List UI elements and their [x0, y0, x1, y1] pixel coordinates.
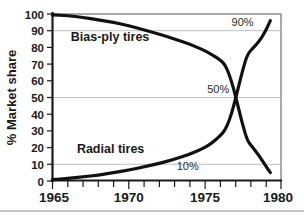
market-share-line-chart: 100 90 80 70 60 50 40 30 20 10 0 % Marke…: [0, 0, 304, 216]
y-tick-label-90: 90: [31, 25, 44, 37]
chart-figure: 100 90 80 70 60 50 40 30 20 10 0 % Marke…: [0, 0, 304, 216]
x-tick-label-1975: 1975: [190, 190, 221, 205]
y-tick-label-40: 40: [31, 109, 44, 121]
annotation-90-percent: 90%: [232, 16, 254, 28]
y-tick-label-60: 60: [31, 75, 44, 87]
y-tick-label-0: 0: [38, 176, 44, 188]
y-tick-label-80: 80: [31, 42, 44, 54]
x-tick-label-1970: 1970: [114, 190, 144, 205]
y-tick-label-10: 10: [31, 159, 44, 171]
x-tick-label-1965: 1965: [39, 190, 70, 205]
y-tick-label-20: 20: [31, 142, 44, 154]
series-label-bias-ply: Bias-ply tires: [71, 30, 150, 44]
annotation-10-percent: 10%: [177, 160, 199, 172]
y-tick-label-70: 70: [31, 59, 44, 71]
y-tick-label-30: 30: [31, 125, 44, 137]
y-axis-title: % Market share: [4, 50, 19, 145]
series-label-radial: Radial tires: [77, 142, 144, 156]
annotation-50-percent: 50%: [207, 83, 229, 95]
y-tick-label-50: 50: [31, 92, 44, 104]
y-tick-label-100: 100: [25, 9, 44, 21]
x-tick-label-1980: 1980: [263, 190, 293, 205]
